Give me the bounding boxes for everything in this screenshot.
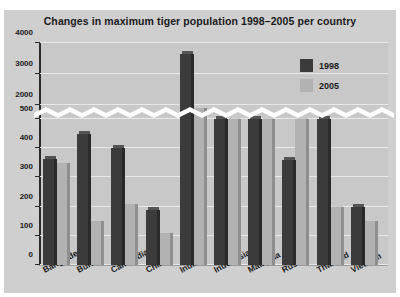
y-axis-tick-label: 3000 xyxy=(15,59,33,68)
bar-side xyxy=(101,221,104,265)
legend-label: 1998 xyxy=(319,61,339,71)
bar-face xyxy=(248,119,259,265)
bar-face xyxy=(261,119,272,265)
y-axis-tick-label: 300 xyxy=(20,162,33,171)
y-axis-tick-label: 100 xyxy=(20,221,33,230)
chart-card: Changes in maximum tiger population 1998… xyxy=(4,10,396,293)
bar-face xyxy=(295,119,306,265)
bar-face xyxy=(227,119,238,265)
bar-group xyxy=(43,43,77,265)
bar-group xyxy=(77,43,111,265)
legend-item-1998[interactable]: 1998 xyxy=(300,57,376,74)
bar-2005-india[interactable] xyxy=(193,108,204,265)
legend-swatch-1998 xyxy=(300,59,313,72)
bar-side xyxy=(170,233,173,265)
bar-1998-china[interactable] xyxy=(146,210,157,265)
bar-1998-malaysia[interactable] xyxy=(248,119,259,265)
bar-side xyxy=(225,119,228,265)
bar-side xyxy=(293,160,296,265)
bar-face xyxy=(180,54,191,265)
bar-face xyxy=(214,119,225,265)
bar-side xyxy=(306,119,309,265)
y-axis-tick-label: 200 xyxy=(20,192,33,201)
bar-group xyxy=(146,43,180,265)
bar-face xyxy=(43,159,54,265)
bar-group xyxy=(111,43,145,265)
bar-side xyxy=(238,119,241,265)
bar-side xyxy=(135,204,138,265)
bar-side xyxy=(204,108,207,265)
bar-side xyxy=(157,210,160,265)
bar-side xyxy=(328,119,331,265)
chart-legend: 19982005 xyxy=(300,57,376,97)
bar-face xyxy=(317,119,328,265)
bar-face xyxy=(282,160,293,265)
bar-1998-bangladesh[interactable] xyxy=(43,159,54,265)
bar-1998-burma[interactable] xyxy=(77,134,88,265)
bar-group xyxy=(180,43,214,265)
bar-2005-russia[interactable] xyxy=(295,119,306,265)
bar-2005-thailand[interactable] xyxy=(330,207,341,265)
bar-group xyxy=(248,43,282,265)
bar-2005-malaysia[interactable] xyxy=(261,119,272,265)
bar-2005-vietnam[interactable] xyxy=(364,221,375,265)
bar-side xyxy=(272,119,275,265)
bar-side xyxy=(88,134,91,265)
bar-1998-india[interactable] xyxy=(180,54,191,265)
bar-2005-indonesia[interactable] xyxy=(227,119,238,265)
bar-face xyxy=(56,163,67,265)
bar-1998-thailand[interactable] xyxy=(317,119,328,265)
bar-face xyxy=(351,207,362,265)
y-axis-tick-label: 0 xyxy=(29,250,33,259)
bar-side xyxy=(122,148,125,265)
y-axis-tick-label: 4000 xyxy=(15,28,33,37)
bar-face xyxy=(330,207,341,265)
bar-group xyxy=(214,43,248,265)
chart-title: Changes in maximum tiger population 1998… xyxy=(4,15,396,27)
bar-side xyxy=(191,54,194,265)
bar-side xyxy=(67,163,70,265)
bar-1998-russia[interactable] xyxy=(282,160,293,265)
y-axis-tick-label: 500 xyxy=(20,104,33,113)
bar-side xyxy=(259,119,262,265)
bar-1998-cambodia[interactable] xyxy=(111,148,122,265)
bar-side xyxy=(54,159,57,265)
bar-face xyxy=(90,221,101,265)
bar-side xyxy=(341,207,344,265)
bar-1998-vietnam[interactable] xyxy=(351,207,362,265)
legend-item-2005[interactable]: 2005 xyxy=(300,77,376,94)
bar-face xyxy=(364,221,375,265)
y-axis-tick-label: 2000 xyxy=(15,90,33,99)
x-axis-labels: BangladeshBurmaCambodiaChinaIndiaIndones… xyxy=(40,266,392,297)
bar-side xyxy=(375,221,378,265)
y-axis-tick-label: 400 xyxy=(20,133,33,142)
bar-face xyxy=(77,134,88,265)
bar-2005-bangladesh[interactable] xyxy=(56,163,67,265)
bar-side xyxy=(362,207,365,265)
bar-face xyxy=(146,210,157,265)
bar-face xyxy=(193,108,204,265)
bar-face xyxy=(159,233,170,265)
bar-2005-burma[interactable] xyxy=(90,221,101,265)
bar-face xyxy=(111,148,122,265)
legend-label: 2005 xyxy=(319,81,339,91)
legend-swatch-2005 xyxy=(300,79,313,92)
bar-face xyxy=(124,204,135,265)
bar-2005-cambodia[interactable] xyxy=(124,204,135,265)
bar-1998-indonesia[interactable] xyxy=(214,119,225,265)
bar-2005-china[interactable] xyxy=(159,233,170,265)
